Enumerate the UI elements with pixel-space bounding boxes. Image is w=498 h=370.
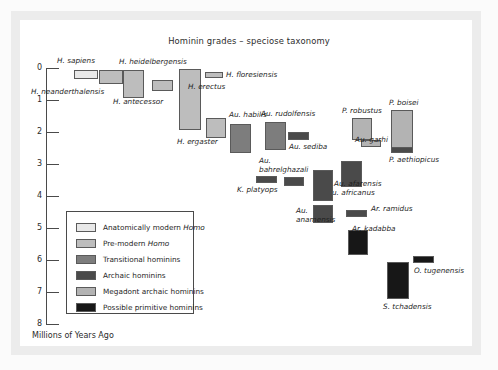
legend-swatch-icon: [76, 223, 96, 232]
range-bar-h-sapiens[interactable]: [74, 70, 98, 79]
range-bar-p-aethiopicus[interactable]: [391, 147, 413, 153]
legend-item-megadont-archaic-hominins[interactable]: Megadont archaic hominins: [76, 285, 204, 297]
range-bar-au-sediba[interactable]: [288, 132, 309, 140]
species-label-au-sediba: Au. sediba: [289, 143, 327, 152]
species-label-h-erectus: H. erectus: [188, 83, 225, 92]
species-label-k-platyops: K. platyops: [237, 186, 278, 195]
range-bar-au-bahrelghazali[interactable]: [284, 177, 304, 186]
y-axis-caption: Millions of Years Ago: [32, 331, 114, 340]
species-label-au-garhi: Au. garhi: [355, 136, 388, 145]
y-tick-mark-3: [46, 164, 59, 165]
species-label-ar-ramidus: Ar. ramidus: [371, 205, 413, 214]
y-tick-label-8: 8: [26, 319, 42, 328]
species-label-h-ergaster: H. ergaster: [177, 138, 218, 147]
range-bar-au-afarensis[interactable]: [313, 170, 333, 201]
legend-item-transitional-hominins[interactable]: Transitional hominins: [76, 253, 180, 265]
range-bar-k-platyops[interactable]: [256, 176, 277, 183]
y-tick-mark-4: [46, 196, 59, 197]
species-label-au-afarensis: Au. afarensis: [334, 180, 382, 189]
y-tick-mark-2: [46, 132, 59, 133]
y-tick-mark-6: [46, 260, 59, 261]
range-bar-h-ergaster[interactable]: [206, 118, 226, 138]
legend-label-text: Anatomically modern: [103, 223, 183, 232]
legend-swatch-icon: [76, 271, 96, 280]
y-tick-label-0: 0: [26, 63, 42, 72]
legend-swatch-icon: [76, 287, 96, 296]
legend-swatch-icon: [76, 303, 96, 312]
legend-swatch-icon: [76, 239, 96, 248]
species-label-p-aethiopicus: P. aethiopicus: [389, 156, 439, 165]
legend-label-genus: Homo: [148, 239, 170, 248]
legend-label-text: Pre-modern: [103, 239, 148, 248]
range-bar-h-heidelbergensis[interactable]: [123, 70, 144, 98]
range-bar-h-neanderthalensis[interactable]: [99, 70, 123, 84]
species-label-h-sapiens: H. sapiens: [57, 57, 95, 66]
species-label-o-tugenensis: O. tugenensis: [414, 267, 464, 276]
plot-area: Hominin grades – speciose taxonomy 01234…: [0, 0, 498, 370]
range-bar-ar-ramidus[interactable]: [346, 210, 367, 217]
species-label-h-floresiensis: H. floresiensis: [226, 71, 277, 80]
y-tick-label-5: 5: [26, 223, 42, 232]
label-au-anamensis-2: anamensis: [296, 216, 335, 225]
y-tick-mark-8: [46, 324, 59, 325]
species-label-au-africanus: Au. africanus: [327, 189, 375, 198]
species-label-h-neanderthalensis: H. neanderthalensis: [31, 88, 104, 97]
range-bar-h-erectus[interactable]: [179, 69, 201, 130]
species-label-p-robustus: P. robustus: [342, 107, 382, 116]
legend-item-anatomically-modern[interactable]: Anatomically modern Homo: [76, 221, 205, 233]
y-tick-label-4: 4: [26, 191, 42, 200]
range-bar-o-tugenensis[interactable]: [413, 256, 434, 263]
species-label-ar-kadabba: Ar. kadabba: [352, 225, 396, 234]
y-tick-label-2: 2: [26, 127, 42, 136]
legend-label-genus: Homo: [183, 223, 205, 232]
chart-title: Hominin grades – speciose taxonomy: [0, 36, 498, 46]
legend-label: Transitional hominins: [103, 255, 180, 264]
range-bar-au-habilis[interactable]: [230, 124, 251, 153]
species-label-p-boisei: P. boisei: [389, 99, 418, 108]
legend-label: Anatomically modern Homo: [103, 223, 205, 232]
range-bar-h-floresiensis[interactable]: [205, 72, 223, 78]
range-bar-s-tchadensis[interactable]: [387, 262, 409, 299]
y-tick-label-3: 3: [26, 159, 42, 168]
range-bar-h-antecessor[interactable]: [152, 80, 173, 91]
range-bar-p-boisei[interactable]: [391, 110, 413, 152]
legend-swatch-icon: [76, 255, 96, 264]
species-label-au-rudolfensis: Au. rudolfensis: [261, 110, 315, 119]
y-tick-mark-7: [46, 292, 59, 293]
range-bar-au-rudolfensis[interactable]: [265, 122, 286, 150]
legend-label: Archaic hominins: [103, 271, 166, 280]
figure-page: Hominin grades – speciose taxonomy 01234…: [0, 0, 498, 370]
y-tick-mark-0: [46, 68, 59, 69]
y-tick-label-6: 6: [26, 255, 42, 264]
legend-item-pre-modern[interactable]: Pre-modern Homo: [76, 237, 169, 249]
range-bar-ar-kadabba[interactable]: [348, 230, 368, 255]
y-tick-label-7: 7: [26, 287, 42, 296]
species-label-h-antecessor: H. antecessor: [113, 98, 163, 107]
species-label-h-heidelbergensis: H. heidelbergensis: [119, 58, 187, 67]
legend: Anatomically modern HomoPre-modern HomoT…: [66, 211, 194, 314]
legend-item-archaic-hominins[interactable]: Archaic hominins: [76, 269, 166, 281]
legend-label: Possible primitive hominins: [103, 303, 203, 312]
label-au-bahrelghazali-2: bahrelghazali: [259, 166, 308, 175]
legend-item-possible-primitive-hominins[interactable]: Possible primitive hominins: [76, 301, 203, 313]
y-tick-mark-5: [46, 228, 59, 229]
legend-label: Pre-modern Homo: [103, 239, 169, 248]
species-label-s-tchadensis: S. tchadensis: [383, 303, 432, 312]
legend-label: Megadont archaic hominins: [103, 287, 204, 296]
y-tick-mark-1: [46, 100, 59, 101]
